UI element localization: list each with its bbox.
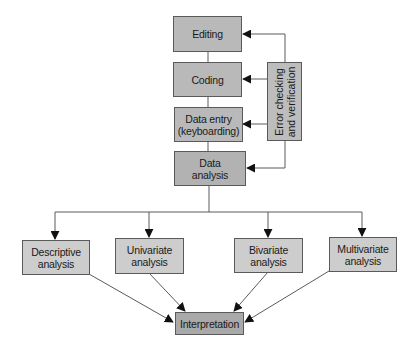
bivariate-analysis-box: Bivariate analysis: [234, 238, 303, 273]
multivariate-analysis-box: Multivariate analysis: [329, 237, 397, 272]
univariate-analysis-box: Univariate analysis: [115, 238, 184, 274]
descriptive-analysis-box: Descriptive analysis: [22, 240, 90, 275]
interpretation-box: Interpretation: [175, 312, 244, 335]
data-entry-box: Data entry (keyboarding): [174, 107, 243, 142]
error-checking-box: Error checking and verification: [267, 62, 302, 141]
error-checking-label: Error checking and verification: [273, 62, 297, 142]
data-analysis-box: Data analysis: [174, 151, 246, 186]
editing-box: Editing: [173, 16, 242, 52]
coding-box: Coding: [173, 62, 242, 97]
